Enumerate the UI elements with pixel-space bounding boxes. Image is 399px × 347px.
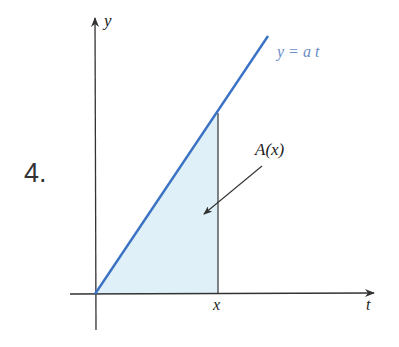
area-label: A(x) [254, 140, 285, 159]
t-axis-label: t [366, 296, 371, 313]
y-axis-label: y [102, 11, 112, 30]
x-bound-label: x [212, 296, 220, 313]
area-diagram: y t x y = a t A(x) [0, 0, 399, 347]
curve-label: y = a t [275, 43, 320, 61]
y-axis [95, 18, 96, 330]
